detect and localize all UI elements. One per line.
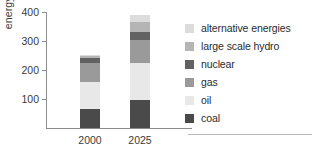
legend-item-label: nuclear xyxy=(201,58,235,70)
legend-item-nuclear[interactable]: nuclear xyxy=(185,55,311,73)
bar-segment-coal[interactable] xyxy=(130,100,150,128)
legend-swatch-icon xyxy=(185,114,194,123)
y-tick-label-300: 300 xyxy=(21,35,39,47)
bar-segment-oil[interactable] xyxy=(130,63,150,101)
x-axis-line xyxy=(46,128,192,129)
plot-area: 100200300400 20002025 xyxy=(46,12,192,129)
footer-rule xyxy=(188,134,312,135)
y-tick-label-100: 100 xyxy=(21,93,39,105)
bar-segment-large-scale-hydro[interactable] xyxy=(130,22,150,32)
bar-segment-gas[interactable] xyxy=(80,63,100,82)
legend-item-gas[interactable]: gas xyxy=(185,73,311,91)
legend: alternative energieslarge scale hydronuc… xyxy=(185,19,311,127)
y-tick-300 xyxy=(42,41,47,42)
bar-segment-gas[interactable] xyxy=(130,40,150,63)
y-tick-400 xyxy=(42,12,47,13)
bar-segment-alternative-energies[interactable] xyxy=(130,15,150,22)
legend-item-label: large scale hydro xyxy=(201,40,279,52)
legend-item-coal[interactable]: coal xyxy=(185,109,311,127)
legend-swatch-icon xyxy=(185,60,194,69)
legend-item-alternative-energies[interactable]: alternative energies xyxy=(185,19,311,37)
legend-item-label: gas xyxy=(201,76,218,88)
legend-item-label: oil xyxy=(201,94,211,106)
x-tick-label-2000: 2000 xyxy=(78,134,101,146)
legend-item-large-scale-hydro[interactable]: large scale hydro xyxy=(185,37,311,55)
y-tick-label-400: 400 xyxy=(21,6,39,18)
bar-segment-oil[interactable] xyxy=(80,82,100,110)
energy-demand-chart: energy demand 100200300400 20002025 alte… xyxy=(0,0,313,157)
y-tick-label-200: 200 xyxy=(21,64,39,76)
bar-segment-nuclear[interactable] xyxy=(130,32,150,39)
legend-item-label: alternative energies xyxy=(201,22,291,34)
legend-swatch-icon xyxy=(185,42,194,51)
y-axis-label: energy demand xyxy=(2,0,16,42)
bar-segment-coal[interactable] xyxy=(80,109,100,128)
legend-swatch-icon xyxy=(185,24,194,33)
y-tick-100 xyxy=(42,99,47,100)
legend-item-label: coal xyxy=(201,112,220,124)
x-tick-label-2025: 2025 xyxy=(128,134,151,146)
y-tick-200 xyxy=(42,70,47,71)
legend-swatch-icon xyxy=(185,78,194,87)
legend-swatch-icon xyxy=(185,96,194,105)
bar-2025[interactable] xyxy=(130,15,150,128)
legend-item-oil[interactable]: oil xyxy=(185,91,311,109)
bar-2000[interactable] xyxy=(80,55,100,128)
